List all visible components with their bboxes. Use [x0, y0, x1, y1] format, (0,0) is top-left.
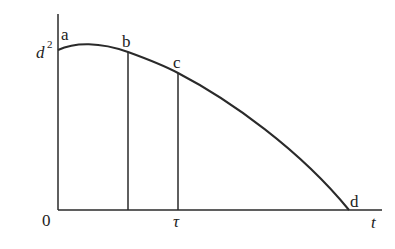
point-label-a: a — [61, 25, 69, 44]
y-tick-label: d — [36, 43, 45, 62]
x-axis-label: t — [371, 213, 377, 232]
curve — [58, 44, 349, 210]
point-label-b: b — [122, 32, 131, 51]
origin-label: 0 — [42, 211, 51, 230]
point-label-d: d — [350, 192, 359, 211]
y-tick-base: d — [36, 43, 45, 62]
point-label-c: c — [173, 53, 181, 72]
curve-diagram: a b c d d 2 0 τ t — [0, 0, 395, 249]
y-tick-exponent: 2 — [47, 38, 53, 50]
x-tick-label-tau: τ — [173, 212, 180, 231]
